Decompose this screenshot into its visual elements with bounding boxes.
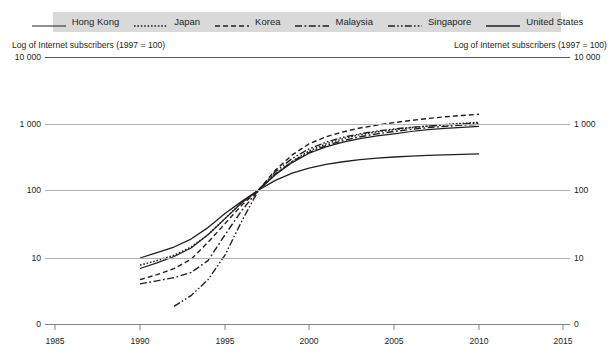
x-tick-mark-2000 (309, 325, 310, 330)
legend-line-swatch-icon (485, 17, 521, 27)
x-tick-label-2000: 2000 (299, 336, 318, 346)
y-tick-label-right-10000: 10 000 (574, 52, 615, 62)
legend-item-singapore[interactable]: Singapore (387, 17, 471, 27)
series-line-korea (140, 114, 479, 279)
series-line-hong-kong (140, 126, 479, 268)
legend-line-swatch-icon (387, 17, 423, 27)
y-tick-label-left-10: 10 (1, 253, 41, 263)
legend-item-hong-kong[interactable]: Hong Kong (31, 17, 120, 27)
gridline-1000 (45, 124, 570, 125)
x-tick-mark-1990 (140, 325, 141, 330)
x-tick-mark-2015 (563, 325, 564, 330)
x-tick-label-2005: 2005 (384, 336, 403, 346)
legend-line-swatch-icon (133, 17, 169, 27)
series-line-united-states (140, 154, 479, 258)
x-tick-label-2010: 2010 (469, 336, 488, 346)
y-axis-title-right: Log of Internet subscribers (1997 = 100) (454, 40, 607, 50)
legend-line-swatch-icon (31, 17, 67, 27)
x-tick-mark-2010 (479, 325, 480, 330)
gridline-10000 (45, 57, 570, 58)
legend-item-label: Korea (255, 17, 280, 27)
chart-legend: Hong KongJapanKoreaMalaysiaSingaporeUnit… (53, 12, 561, 32)
x-tick-label-2015: 2015 (553, 336, 572, 346)
x-tick-label-1990: 1990 (130, 336, 149, 346)
x-tick-mark-2005 (394, 325, 395, 330)
x-axis: 1985199019952000200520102015 (45, 325, 570, 355)
legend-item-label: Malaysia (335, 17, 373, 27)
legend-item-label: Japan (174, 17, 200, 27)
x-tick-mark-1995 (225, 325, 226, 330)
legend-line-swatch-icon (294, 17, 330, 27)
y-tick-label-right-1000: 1 000 (574, 119, 615, 129)
y-tick-label-left-1000: 1 000 (1, 119, 41, 129)
legend-line-swatch-icon (214, 17, 250, 27)
legend-item-japan[interactable]: Japan (133, 17, 200, 27)
chart-root: Hong KongJapanKoreaMalaysiaSingaporeUnit… (0, 0, 615, 362)
legend-item-korea[interactable]: Korea (214, 17, 280, 27)
y-tick-label-right-0: 0 (574, 319, 615, 329)
x-tick-label-1995: 1995 (215, 336, 234, 346)
y-tick-label-right-100: 100 (574, 185, 615, 195)
y-tick-label-left-0: 0 (1, 319, 41, 329)
x-tick-mark-1985 (55, 325, 56, 330)
y-tick-label-left-10000: 10 000 (1, 52, 41, 62)
series-line-singapore (174, 123, 479, 306)
series-line-malaysia (140, 124, 479, 284)
legend-item-label: Singapore (428, 17, 471, 27)
plot-area: 10 00010 0001 0001 000100100101000 (45, 55, 570, 325)
series-line-japan (140, 122, 479, 265)
y-tick-label-right-10: 10 (574, 253, 615, 263)
legend-item-malaysia[interactable]: Malaysia (294, 17, 373, 27)
y-tick-label-left-100: 100 (1, 185, 41, 195)
x-tick-label-1985: 1985 (45, 336, 64, 346)
legend-item-united-states[interactable]: United States (485, 17, 583, 27)
y-axis-title-left: Log of Internet subscribers (1997 = 100) (12, 40, 165, 50)
legend-item-label: United States (526, 17, 583, 27)
gridline-10 (45, 258, 570, 259)
legend-item-label: Hong Kong (72, 17, 120, 27)
gridline-100 (45, 190, 570, 191)
